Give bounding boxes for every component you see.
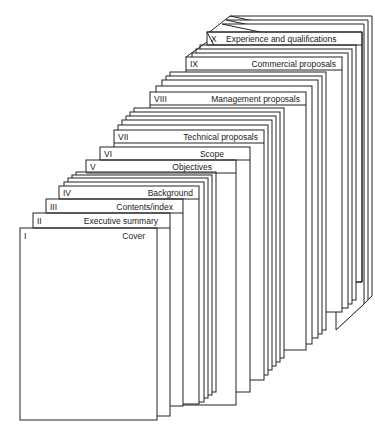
- section-ix-title: Commercial proposals: [251, 59, 336, 69]
- section-iii-title: Contents/index: [116, 202, 173, 212]
- section-i-title: Cover: [122, 231, 145, 241]
- section-v-numeral: V: [90, 162, 96, 172]
- section-ix-numeral: IX: [190, 59, 198, 69]
- section-vi-title: Scope: [200, 149, 224, 159]
- section-i-numeral: I: [24, 231, 26, 241]
- proposal-structure-diagram: X Experience and qualifications IX Comme…: [0, 0, 375, 436]
- section-v-title: Objectives: [172, 162, 212, 172]
- section-iii-numeral: III: [50, 202, 57, 212]
- section-iv-title: Background: [148, 188, 194, 198]
- section-iv-numeral: IV: [63, 188, 71, 198]
- section-viii-numeral: VIII: [154, 94, 167, 104]
- section-ii-title: Executive summary: [84, 216, 159, 226]
- section-viii-title: Management proposals: [211, 94, 300, 104]
- section-x-title: Experience and qualifications: [226, 34, 337, 44]
- section-x-numeral: X: [211, 34, 217, 44]
- section-vii-numeral: VII: [118, 132, 128, 142]
- section-vi-numeral: VI: [104, 149, 112, 159]
- section-ii-numeral: II: [37, 216, 42, 226]
- section-vii-title: Technical proposals: [183, 132, 258, 142]
- section-i-sheet: [20, 228, 157, 420]
